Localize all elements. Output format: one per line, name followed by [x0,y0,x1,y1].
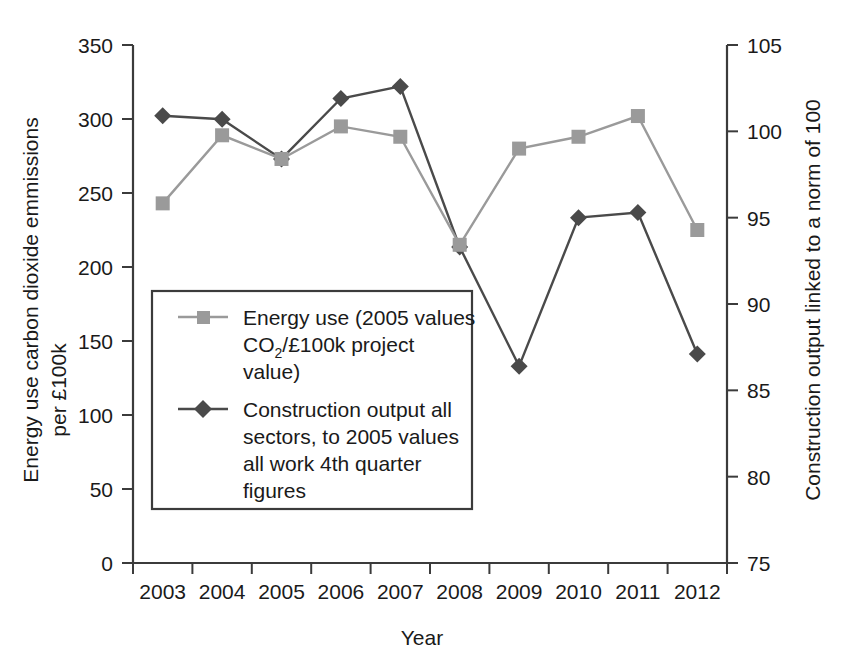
y-right-tick-label: 90 [747,293,770,316]
x-tick-label: 2006 [318,580,365,603]
y-left-tick-label: 100 [78,404,113,427]
legend-label-construction-line2: sectors, to 2005 values [243,425,459,448]
y-axis-left-ticks [122,45,133,563]
data-point-square-marker [393,130,407,144]
y-right-tick-label: 95 [747,207,770,230]
y-axis-left-title-line2: per £100k [47,343,70,437]
y-left-tick-label: 50 [90,478,113,501]
data-point-square-marker [572,130,586,144]
data-point-diamond-marker [214,111,231,128]
y-axis-right-ticks [727,45,738,563]
legend-label-energy-line1: Energy use (2005 values [243,306,475,329]
y-left-tick-label: 300 [78,108,113,131]
y-left-tick-label: 0 [101,552,113,575]
x-tick-label: 2003 [139,580,186,603]
chart-container: 050100150200250300350 7580859095100105 2… [0,0,844,659]
series-line [163,116,698,245]
data-point-square-marker [512,142,526,156]
y-axis-left-title-line1: Energy use carbon dioxide emmissions [19,117,42,482]
x-tick-label: 2010 [555,580,602,603]
data-point-square-marker [275,152,289,166]
y-axis-right-tick-labels: 7580859095100105 [747,34,782,575]
legend-label-energy-line3: value) [243,360,300,383]
y-axis-right-title: Construction output linked to a norm of … [801,99,824,501]
data-point-diamond-marker [511,358,528,375]
x-axis-title: Year [401,626,443,649]
data-point-diamond-marker [629,204,646,221]
data-point-diamond-marker [570,209,587,226]
data-point-square-marker [215,128,229,142]
y-left-tick-label: 150 [78,330,113,353]
legend-co2-subscript: 2 [275,345,283,361]
x-tick-label: 2007 [377,580,424,603]
x-tick-label: 2009 [496,580,543,603]
legend-co2-pre: CO [243,333,275,356]
x-tick-label: 2012 [674,580,721,603]
x-tick-label: 2008 [436,580,483,603]
line-chart: 050100150200250300350 7580859095100105 2… [0,0,844,659]
data-point-diamond-marker [689,346,706,363]
y-right-tick-label: 105 [747,34,782,57]
y-right-tick-label: 100 [747,120,782,143]
legend-label-construction-line4: figures [243,479,306,502]
x-axis-ticks [133,563,727,574]
x-tick-label: 2004 [199,580,246,603]
y-right-tick-label: 80 [747,466,770,489]
data-point-square-marker [453,238,467,252]
data-point-diamond-marker [392,78,409,95]
data-point-square-marker [690,223,704,237]
y-axis-left-tick-labels: 050100150200250300350 [78,34,113,575]
y-left-tick-label: 250 [78,182,113,205]
y-right-tick-label: 85 [747,379,770,402]
square-marker-icon [197,311,210,324]
legend-label-construction-line3: all work 4th quarter [243,452,422,475]
data-point-square-marker [334,119,348,133]
chart-legend: Energy use (2005 values CO2/£100k projec… [152,291,475,509]
y-left-tick-label: 350 [78,34,113,57]
legend-label-construction-line1: Construction output all [243,398,452,421]
x-axis-tick-labels: 2003200420052006200720082009201020112012 [139,580,720,603]
x-tick-label: 2011 [615,580,660,603]
data-point-square-marker [156,196,170,210]
y-left-tick-label: 200 [78,256,113,279]
y-right-tick-label: 75 [747,552,770,575]
data-point-square-marker [631,109,645,123]
data-point-diamond-marker [154,107,171,124]
x-tick-label: 2005 [258,580,305,603]
legend-co2-post: /£100k project [282,333,414,356]
